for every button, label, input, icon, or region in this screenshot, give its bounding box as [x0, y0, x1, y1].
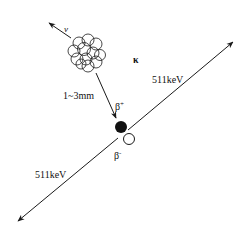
- electron-label-sup: -: [119, 149, 121, 157]
- gamma-lower-label: 511keV: [35, 170, 66, 180]
- gamma-upper-label: 511keV: [152, 75, 183, 85]
- neutrino-label: ν: [64, 25, 68, 34]
- electron-label: β-: [114, 150, 121, 161]
- positron-label-sup: +: [120, 100, 124, 108]
- gamma-line-upper: [128, 42, 233, 130]
- electron-particle-icon: [124, 134, 135, 145]
- range-label: 1~3mm: [63, 91, 94, 101]
- positron-label: β+: [115, 101, 124, 112]
- positron-path-arrow: [96, 73, 116, 118]
- positron-particle-icon: [115, 121, 127, 133]
- positron-annihilation-diagram: [0, 0, 248, 228]
- kappa-label: κ: [133, 55, 139, 65]
- nucleus-icon: [68, 34, 106, 72]
- gamma-line-lower: [18, 138, 118, 221]
